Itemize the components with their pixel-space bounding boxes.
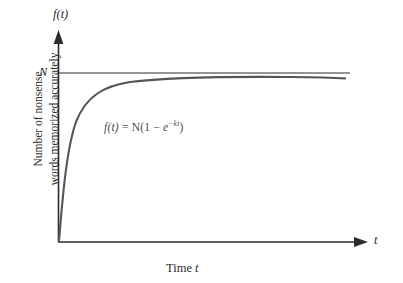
equation-function-name: f(t) <box>104 121 119 133</box>
y-axis-caption-line-1: Number of nonsense <box>31 39 47 199</box>
y-axis-caption: Number of nonsense words memorized accur… <box>31 39 65 199</box>
x-axis-arrow-icon <box>354 237 368 247</box>
x-axis-caption-variable: t <box>195 261 198 275</box>
learning-curve-figure: f(t) N t Time t Number of nonsense words… <box>0 0 403 283</box>
equation-minus-sign: − <box>153 121 160 133</box>
equation-open-paren: N(1 <box>132 121 154 133</box>
y-axis-variable-label: f(t) <box>53 8 68 21</box>
x-axis-caption: Time t <box>166 262 199 275</box>
y-axis-caption-line-2: words memorized accurately <box>47 39 63 199</box>
x-axis-caption-text: Time <box>166 261 195 275</box>
equation-equals-sign: = <box>119 121 132 133</box>
x-axis-variable-label: t <box>374 234 377 247</box>
equation-close-paren: ) <box>179 121 183 133</box>
equation-exponent: −kt <box>168 119 179 128</box>
curve-equation-annotation: f(t) = N(1 − e−kt) <box>104 122 183 134</box>
exponential-curve <box>59 77 345 241</box>
